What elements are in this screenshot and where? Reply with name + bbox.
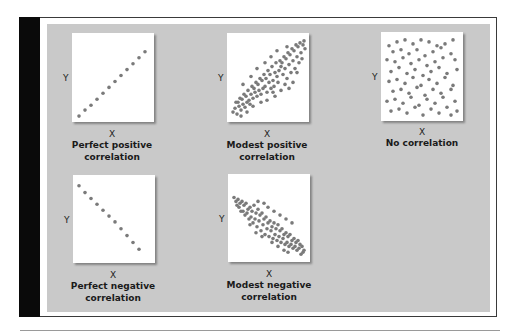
y-axis-label: Y <box>63 73 69 83</box>
caption-modest-negative: Modest negative correlation <box>204 279 334 303</box>
left-black-bar <box>19 17 40 317</box>
bottom-divider <box>20 330 500 331</box>
x-axis-label: X <box>266 269 272 279</box>
caption-line-2: correlation <box>48 292 178 304</box>
y-axis-label: Y <box>219 214 225 224</box>
caption-line-1: Perfect positive <box>47 139 177 151</box>
scatter-plot-modest-positive <box>227 33 309 122</box>
scatter-plot-perfect-negative <box>73 175 155 263</box>
caption-line-2: correlation <box>47 151 177 163</box>
scatter-plot-no-correlation <box>381 32 463 121</box>
caption-line-2: correlation <box>202 151 332 163</box>
caption-line-1: Modest negative <box>204 279 334 291</box>
scatter-plot-modest-negative <box>228 174 310 262</box>
y-axis-label: Y <box>64 215 70 225</box>
caption-line-2: correlation <box>204 291 334 303</box>
y-axis-label: Y <box>372 72 378 82</box>
y-axis-label: Y <box>218 73 224 83</box>
caption-line-1: Perfect negative <box>48 280 178 292</box>
x-axis-label: X <box>109 129 115 139</box>
x-axis-label: X <box>419 127 425 137</box>
scatter-plot-perfect-positive <box>72 33 154 122</box>
caption-modest-positive: Modest positive correlation <box>202 139 332 163</box>
x-axis-label: X <box>264 129 270 139</box>
caption-line-1: No correlation <box>357 137 487 149</box>
caption-perfect-positive: Perfect positive correlation <box>47 139 177 163</box>
caption-line-1: Modest positive <box>202 139 332 151</box>
caption-no-correlation: No correlation <box>357 137 487 149</box>
caption-perfect-negative: Perfect negative correlation <box>48 280 178 304</box>
x-axis-label: X <box>110 270 116 280</box>
